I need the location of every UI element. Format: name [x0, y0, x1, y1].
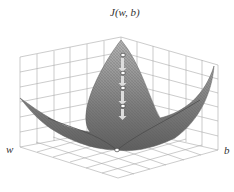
cost-surface: [20, 40, 214, 151]
surface-plot: [0, 0, 234, 192]
